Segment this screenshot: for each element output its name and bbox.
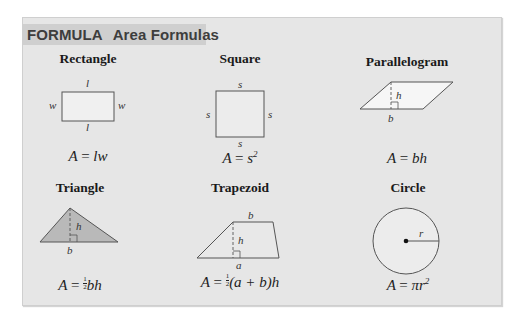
circle-title: Circle	[338, 180, 478, 196]
circle-label-radius: r	[419, 227, 423, 239]
triangle-label-base: b	[67, 244, 73, 256]
trapezoid-formula: A = 12(a + b)h	[160, 273, 320, 291]
triangle-title: Triangle	[10, 180, 150, 196]
parallelogram-shape	[360, 82, 453, 109]
square-title: Square	[170, 51, 310, 67]
trapezoid-label-height: h	[238, 234, 244, 246]
trapezoid-label-top: b	[248, 209, 254, 221]
rectangle-title: Rectangle	[18, 51, 158, 67]
rectangle-formula: A = lw	[8, 148, 168, 165]
circle-center-dot	[404, 239, 409, 244]
triangle-label-height: h	[76, 220, 82, 232]
square-shape	[216, 91, 264, 137]
square-label-right: s	[268, 108, 272, 120]
square-label-left: s	[206, 108, 210, 120]
rectangle-label-right: w	[118, 99, 125, 111]
square-label-bottom: s	[238, 137, 242, 149]
rectangle-label-left: w	[49, 99, 56, 111]
parallelogram-title: Parallelogram	[337, 54, 477, 70]
rectangle-label-top: l	[86, 77, 89, 89]
parallelogram-label-base: b	[388, 112, 394, 124]
parallelogram-formula: A = bh	[327, 150, 487, 167]
rectangle-label-bottom: l	[86, 121, 89, 133]
square-label-top: s	[238, 78, 242, 90]
trapezoid-title: Trapezoid	[170, 180, 310, 196]
triangle-formula: A = 12bh	[0, 276, 160, 294]
rectangle-shape	[62, 92, 114, 121]
parallelogram-label-height: h	[396, 89, 402, 101]
trapezoid-label-bottom: a	[236, 259, 242, 271]
circle-formula: A = πr2	[328, 276, 488, 294]
square-formula: A = s2	[160, 149, 320, 167]
